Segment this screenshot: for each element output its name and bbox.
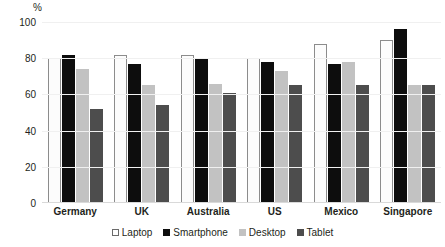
bar-smartphone-mexico[interactable] [328, 64, 341, 203]
bar-group [109, 22, 176, 203]
x-axis-baseline [42, 202, 441, 203]
gridline [42, 58, 441, 59]
plot-area [42, 22, 441, 203]
bar-chart: % 100806040200 GermanyUKAustraliaUSMexic… [0, 0, 445, 247]
legend-item-desktop[interactable]: Desktop [239, 227, 286, 238]
legend-label: Tablet [307, 227, 334, 238]
bar-tablet-germany[interactable] [90, 109, 103, 203]
gridline [42, 94, 441, 95]
y-axis-tick-label: 80 [0, 53, 36, 64]
legend-label: Desktop [249, 227, 286, 238]
y-axis-tick-label: 100 [0, 17, 36, 28]
legend-swatch-tablet-icon [297, 229, 304, 236]
x-axis-label-singapore: Singapore [375, 206, 442, 217]
bar-desktop-uk[interactable] [142, 85, 155, 203]
legend-item-tablet[interactable]: Tablet [297, 227, 334, 238]
x-axis-label-uk: UK [109, 206, 176, 217]
x-axis-label-mexico: Mexico [308, 206, 375, 217]
bar-tablet-singapore[interactable] [422, 85, 435, 203]
bar-tablet-australia[interactable] [223, 93, 236, 203]
legend-swatch-desktop-icon [239, 229, 246, 236]
bar-desktop-germany[interactable] [76, 69, 89, 203]
x-axis-label-us: US [242, 206, 309, 217]
x-axis-label-australia: Australia [175, 206, 242, 217]
bar-smartphone-uk[interactable] [128, 64, 141, 203]
legend-item-smartphone[interactable]: Smartphone [163, 227, 227, 238]
bar-desktop-mexico[interactable] [342, 62, 355, 203]
bar-group [308, 22, 375, 203]
y-axis-tick-label: 60 [0, 89, 36, 100]
bar-group [175, 22, 242, 203]
bar-group [42, 22, 109, 203]
bar-desktop-singapore[interactable] [408, 85, 421, 203]
legend-swatch-smartphone-icon [163, 229, 170, 236]
bar-laptop-uk[interactable] [114, 55, 127, 203]
bar-group [375, 22, 442, 203]
x-axis-labels: GermanyUKAustraliaUSMexicoSingapore [42, 206, 441, 217]
bar-smartphone-germany[interactable] [62, 55, 75, 203]
bar-tablet-mexico[interactable] [356, 85, 369, 203]
y-axis: 100806040200 [0, 16, 42, 208]
bar-laptop-mexico[interactable] [314, 44, 327, 203]
y-axis-unit-label: % [20, 2, 42, 13]
bar-laptop-australia[interactable] [181, 55, 194, 203]
legend-item-laptop[interactable]: Laptop [112, 227, 153, 238]
legend-label: Laptop [122, 227, 153, 238]
legend-swatch-laptop-icon [112, 229, 119, 236]
bar-desktop-us[interactable] [275, 71, 288, 203]
x-axis-label-germany: Germany [42, 206, 109, 217]
bar-desktop-australia[interactable] [209, 84, 222, 203]
bar-smartphone-singapore[interactable] [394, 29, 407, 203]
bar-groups [42, 22, 441, 203]
y-axis-tick-label: 0 [0, 198, 36, 209]
gridline [42, 167, 441, 168]
y-axis-tick-label: 40 [0, 125, 36, 136]
bar-laptop-singapore[interactable] [380, 40, 393, 203]
chart-legend: LaptopSmartphoneDesktopTablet [0, 227, 445, 238]
gridline [42, 22, 441, 23]
bar-tablet-uk[interactable] [156, 105, 169, 203]
y-axis-tick-label: 20 [0, 161, 36, 172]
gridline [42, 131, 441, 132]
legend-label: Smartphone [173, 227, 227, 238]
bar-tablet-us[interactable] [289, 85, 302, 203]
bar-group [242, 22, 309, 203]
bar-smartphone-us[interactable] [261, 62, 274, 203]
